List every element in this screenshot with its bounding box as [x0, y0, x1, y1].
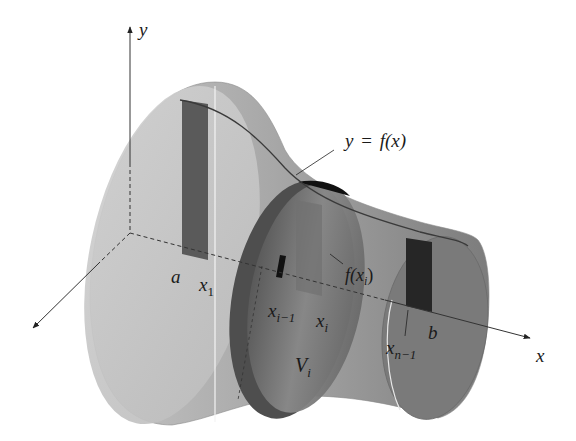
- curve-label: y = f(x): [343, 130, 406, 152]
- curve-label-rhs: f(x): [380, 130, 406, 152]
- strip-a-x1: [182, 100, 208, 260]
- solid-of-revolution-figure: y x y = f(x) a x1 xi−1 xi xn−1 b f(xi) V…: [0, 0, 576, 441]
- curve-label-lhs: y: [343, 130, 354, 151]
- strip-xnm1-b: [406, 238, 432, 312]
- label-f-of-xi: f(xi): [345, 265, 373, 288]
- curve-label-leader: [296, 150, 334, 175]
- disk-method-diagram: y x y = f(x) a x1 xi−1 xi xn−1 b f(xi) V…: [0, 0, 576, 441]
- label-b: b: [428, 322, 438, 343]
- x-axis-label: x: [535, 345, 545, 366]
- strip-xim1-xi: [296, 200, 322, 296]
- label-a: a: [171, 266, 181, 287]
- curve-label-eq: =: [361, 130, 372, 151]
- y-axis-label: y: [137, 19, 148, 40]
